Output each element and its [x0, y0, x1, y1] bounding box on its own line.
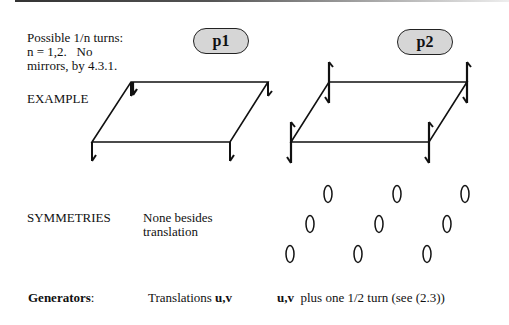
p2-example-lattice [287, 62, 471, 163]
p2-symmetry-ellipses [286, 186, 469, 263]
p1-example-lattice [92, 82, 272, 161]
p2-parallelogram [291, 82, 467, 142]
p1-motif-bottom-left [92, 142, 96, 161]
half-turn-centre [375, 216, 383, 233]
half-turn-centre [443, 216, 451, 233]
p1-motif-bottom-right [230, 142, 234, 161]
p1-motif-top-left [131, 82, 137, 96]
figures-canvas [0, 0, 509, 325]
half-turn-centre [324, 186, 332, 203]
half-turn-centre [286, 246, 294, 263]
p1-parallelogram [92, 82, 268, 142]
half-turn-centre [461, 186, 469, 203]
half-turn-centre [306, 216, 314, 233]
p1-motif-top-right [268, 82, 272, 96]
half-turn-centre [393, 186, 401, 203]
half-turn-centre [354, 246, 362, 263]
half-turn-centre [423, 246, 431, 263]
